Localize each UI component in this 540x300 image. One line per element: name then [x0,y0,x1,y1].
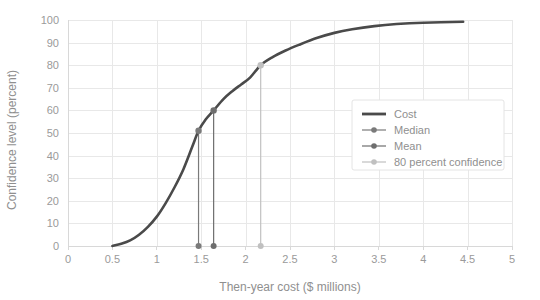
legend-label: 80 percent confidence [394,156,502,168]
y-tick-label: 40 [47,150,59,162]
baseline-marker [196,243,202,249]
x-tick-label: 1 [154,253,160,265]
y-tick-label: 0 [53,240,59,252]
y-tick-label: 100 [41,14,59,26]
x-tick-label: 2 [243,253,249,265]
x-axis-title: Then-year cost ($ millions) [219,280,360,294]
y-tick-label: 20 [47,195,59,207]
legend-label: Mean [394,140,422,152]
x-tick-label: 4 [420,253,426,265]
x-tick-label: 5 [509,253,515,265]
x-tick-label: 2.5 [282,253,297,265]
y-tick-label: 80 [47,59,59,71]
y-axis-tick-labels: 0102030405060708090100 [41,14,59,252]
legend-marker-dot [371,143,377,149]
x-axis-tick-labels: 00.511.522.533.544.55 [65,246,515,265]
chart-legend[interactable]: CostMedianMean80 percent confidence [352,100,504,170]
x-tick-label: 4.5 [460,253,475,265]
legend-marker-dot [371,159,377,165]
y-axis-title: Confidence level (percent) [5,70,19,210]
legend-label: Cost [394,108,417,120]
x-tick-label: 3.5 [371,253,386,265]
y-tick-label: 70 [47,82,59,94]
chart-canvas: 00.511.522.533.544.55 010203040506070809… [0,0,540,300]
legend-label: Median [394,124,430,136]
marker-median [195,128,201,134]
y-tick-label: 60 [47,104,59,116]
baseline-marker [211,243,217,249]
x-tick-label: 0 [65,253,71,265]
marker-mean [210,107,216,113]
x-tick-label: 1.5 [194,253,209,265]
y-tick-label: 90 [47,37,59,49]
y-tick-label: 50 [47,127,59,139]
y-tick-label: 30 [47,172,59,184]
marker-80-percent-confidence [257,62,263,68]
cost-confidence-chart: 00.511.522.533.544.55 010203040506070809… [0,0,540,300]
y-tick-label: 10 [47,217,59,229]
x-tick-label: 3 [331,253,337,265]
legend-marker-dot [371,127,377,133]
baseline-marker [258,243,264,249]
x-tick-label: 0.5 [105,253,120,265]
